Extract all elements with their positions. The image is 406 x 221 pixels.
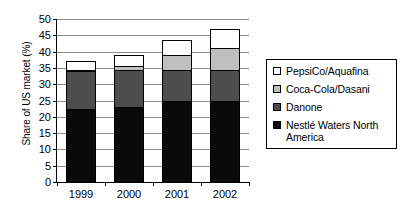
legend-label-cocacola: Coca-Cola/Dasani [286, 83, 370, 95]
bar-segment [162, 101, 192, 183]
y-axis-tick-label: 30 [29, 79, 51, 90]
legend-swatch-pepsico-icon [273, 67, 281, 75]
y-axis-tick [53, 84, 57, 85]
bar-1999 [66, 61, 96, 182]
y-axis-tick [53, 149, 57, 150]
y-axis-tick-label: 40 [29, 46, 51, 57]
y-axis-tick [53, 52, 57, 53]
bar-segment [66, 71, 96, 108]
legend-label-nestle: Nestlé Waters North America [286, 119, 392, 143]
legend-item-cocacola[interactable]: Coca-Cola/Dasani [273, 83, 392, 95]
y-axis-tick-label: 5 [29, 160, 51, 171]
y-axis-tick-label: 50 [29, 14, 51, 25]
legend-item-nestle[interactable]: Nestlé Waters North America [273, 119, 392, 143]
x-axis-tick-label: 1999 [69, 188, 93, 200]
y-axis-tick [53, 68, 57, 69]
legend-label-pepsico: PepsiCo/Aquafina [286, 65, 368, 77]
bar-segment [162, 55, 192, 70]
y-axis-tick-label: 10 [29, 144, 51, 155]
gridline [57, 19, 249, 20]
bar-segment [210, 70, 240, 101]
y-axis-tick [53, 101, 57, 102]
y-axis-tick-label: 0 [29, 177, 51, 188]
bar-2000 [114, 55, 144, 182]
bar-segment [114, 107, 144, 182]
x-axis-tick [249, 182, 250, 186]
y-axis-tick [53, 166, 57, 167]
legend-swatch-nestle-icon [273, 121, 281, 129]
y-axis-tick-label: 20 [29, 111, 51, 122]
y-axis-tick [53, 117, 57, 118]
bar-2002 [210, 29, 240, 182]
bar-segment [114, 55, 144, 66]
bar-2001 [162, 40, 192, 182]
x-axis-tick-label: 2001 [165, 188, 189, 200]
y-axis-tick-label: 15 [29, 128, 51, 139]
y-axis-tick [53, 19, 57, 20]
bar-segment [114, 70, 144, 107]
bar-segment [210, 48, 240, 69]
legend-item-pepsico[interactable]: PepsiCo/Aquafina [273, 65, 392, 77]
bar-segment [66, 61, 96, 69]
bar-segment [66, 109, 96, 182]
legend-item-danone[interactable]: Danone [273, 101, 392, 113]
legend-swatch-cocacola-icon [273, 85, 281, 93]
y-axis-tick [53, 133, 57, 134]
bar-segment [210, 101, 240, 183]
plot-area: 051015202530354045501999200020012002 [56, 19, 249, 183]
x-axis-tick [153, 182, 154, 186]
x-axis-tick [105, 182, 106, 186]
chart-legend: PepsiCo/Aquafina Coca-Cola/Dasani Danone… [266, 59, 397, 149]
x-axis-tick-label: 2002 [213, 188, 237, 200]
bar-segment [162, 70, 192, 101]
y-axis-tick [53, 35, 57, 36]
legend-swatch-danone-icon [273, 103, 281, 111]
x-axis-tick [57, 182, 58, 186]
y-axis-tick-label: 25 [29, 95, 51, 106]
legend-label-danone: Danone [286, 101, 322, 113]
bar-segment [162, 40, 192, 55]
y-axis-tick-label: 35 [29, 62, 51, 73]
x-axis-tick-label: 2000 [117, 188, 141, 200]
stacked-bar-chart: Share of US market (%) 05101520253035404… [0, 0, 406, 221]
bar-segment [210, 29, 240, 49]
y-axis-tick-label: 45 [29, 30, 51, 41]
x-axis-tick [201, 182, 202, 186]
